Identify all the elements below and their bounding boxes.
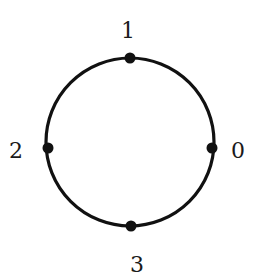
- node-label-2: 2: [9, 138, 23, 163]
- node-0: [207, 143, 218, 154]
- node-3: [126, 221, 137, 232]
- node-label-1: 1: [121, 18, 135, 43]
- node-2: [43, 143, 54, 154]
- cycle-diagram: 0 1 2 3: [0, 0, 256, 279]
- node-label-3: 3: [130, 252, 144, 277]
- cycle-circle: [46, 58, 214, 226]
- node-1: [125, 53, 136, 64]
- node-label-0: 0: [231, 138, 245, 163]
